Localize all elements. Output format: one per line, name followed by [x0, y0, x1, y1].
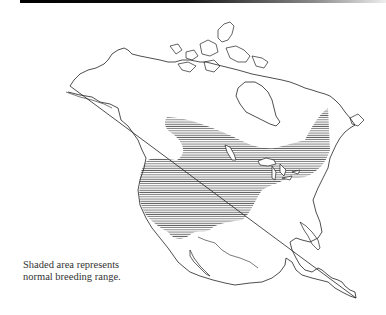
- map-legend: Shaded area represents normal breeding r…: [23, 259, 121, 283]
- breeding-range: [139, 108, 330, 239]
- legend-line-1: Shaded area represents: [23, 259, 121, 271]
- arctic-islands: [170, 22, 268, 72]
- newfoundland: [350, 114, 364, 126]
- florida: [300, 222, 320, 250]
- border-line: [198, 237, 258, 268]
- baja-california: [190, 250, 210, 276]
- legend-line-2: normal breeding range.: [23, 271, 121, 283]
- hudson-bay: [236, 82, 280, 126]
